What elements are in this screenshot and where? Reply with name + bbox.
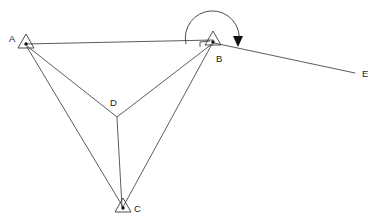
line-a-d <box>27 46 117 117</box>
line-d-c <box>117 118 122 207</box>
angle-arc-at-b <box>185 11 239 44</box>
line-b-d <box>117 44 212 117</box>
station-b <box>205 31 221 45</box>
triangle-station-icon <box>115 198 131 212</box>
station-center-dot <box>211 40 214 43</box>
direction-arrowhead <box>233 36 243 47</box>
label-d: D <box>110 97 117 108</box>
survey-canvas: A B C D E <box>0 0 385 224</box>
line-b-c <box>123 44 212 207</box>
station-c <box>115 198 131 212</box>
survey-diagram: A B C D E <box>0 0 385 224</box>
right-angle-square-icon <box>200 41 210 47</box>
label-e: E <box>362 68 368 79</box>
line-a-c <box>27 47 123 207</box>
label-a: A <box>9 33 16 44</box>
station-center-dot <box>121 206 124 209</box>
station-a <box>18 34 34 48</box>
traverse-lines <box>26 40 355 207</box>
station-center-dot <box>24 42 27 45</box>
right-angle-marker-at-b <box>200 41 210 47</box>
label-c: C <box>134 203 141 214</box>
line-a-b <box>26 40 213 44</box>
label-b: B <box>216 53 222 64</box>
triangle-station-icon <box>18 34 34 48</box>
line-b-e <box>214 43 355 73</box>
point-labels: A B C D E <box>9 33 368 214</box>
